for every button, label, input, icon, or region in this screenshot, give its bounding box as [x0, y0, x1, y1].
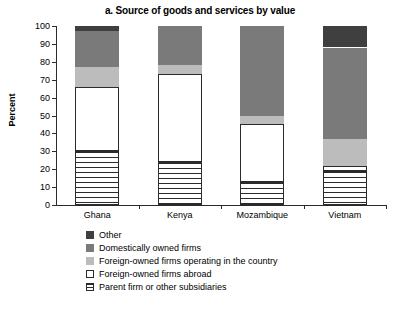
chart-title: a. Source of goods and services by value [0, 5, 400, 16]
chart-legend: OtherDomestically owned firmsForeign-own… [86, 228, 386, 293]
bar-segment-foreign-local [323, 139, 367, 166]
bar-vietnam [323, 26, 367, 205]
x-axis-tick-label: Vietnam [328, 210, 361, 220]
bar-segment-foreign-local [158, 65, 202, 74]
y-axis-tick-mark [52, 205, 56, 206]
x-axis-tick-mark [386, 205, 387, 209]
y-axis-line [56, 26, 57, 205]
x-axis-tick-label: Kenya [167, 210, 193, 220]
legend-item: Foreign-owned firms abroad [86, 267, 386, 280]
bar-ghana [75, 26, 119, 205]
y-axis-tick-mark [52, 80, 56, 81]
bar-segment-foreign-abroad [323, 166, 367, 171]
y-axis-tick-mark [52, 98, 56, 99]
bar-segment-foreign-abroad [240, 124, 284, 181]
bar-segment-foreign-local [240, 116, 284, 125]
bar-segment-foreign-abroad [75, 87, 119, 151]
legend-swatch-domestic [86, 244, 94, 252]
y-axis-tick-mark [52, 169, 56, 170]
bar-segment-domestic [158, 26, 202, 65]
bar-segment-other [75, 26, 119, 31]
bar-kenya [158, 26, 202, 205]
legend-swatch-foreign-local [86, 257, 94, 265]
legend-swatch-parent [86, 283, 94, 291]
legend-label: Domestically owned firms [99, 243, 201, 253]
plot-area: 0102030405060708090100GhanaKenyaMozambiq… [56, 26, 386, 205]
bar-segment-parent [323, 171, 367, 205]
x-axis-tick-label: Mozambique [236, 210, 288, 220]
legend-label: Foreign-owned firms abroad [99, 269, 212, 279]
y-axis-tick-mark [52, 116, 56, 117]
y-axis-tick-mark [52, 133, 56, 134]
bar-mozambique [240, 26, 284, 205]
y-axis-title: Percent [7, 75, 17, 145]
x-axis-tick-mark [304, 205, 305, 209]
legend-item: Parent firm or other subsidiaries [86, 280, 386, 293]
bar-segment-domestic [240, 26, 284, 116]
bar-segment-parent [158, 162, 202, 205]
y-axis-tick-mark [52, 187, 56, 188]
legend-item: Foreign-owned firms operating in the cou… [86, 254, 386, 267]
legend-swatch-foreign-abroad [86, 270, 94, 278]
legend-item: Other [86, 228, 386, 241]
legend-swatch-other [86, 231, 94, 239]
legend-label: Foreign-owned firms operating in the cou… [99, 256, 278, 266]
bar-segment-domestic [75, 31, 119, 67]
x-axis-tick-label: Ghana [84, 210, 111, 220]
y-axis-tick-mark [52, 62, 56, 63]
bar-segment-foreign-abroad [158, 74, 202, 162]
legend-label: Parent firm or other subsidiaries [99, 282, 227, 292]
bar-segment-foreign-local [75, 67, 119, 87]
legend-item: Domestically owned firms [86, 241, 386, 254]
bar-segment-other [323, 26, 367, 47]
bar-segment-parent [240, 182, 284, 205]
y-axis-tick-mark [52, 151, 56, 152]
y-axis-tick-mark [52, 26, 56, 27]
bar-segment-parent [75, 151, 119, 205]
bar-segment-domestic [323, 48, 367, 139]
x-axis-tick-mark [221, 205, 222, 209]
legend-label: Other [99, 230, 122, 240]
x-axis-tick-mark [139, 205, 140, 209]
y-axis-tick-mark [52, 44, 56, 45]
chart-figure: a. Source of goods and services by value… [0, 0, 400, 315]
